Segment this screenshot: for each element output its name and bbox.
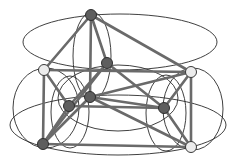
edge-B-H xyxy=(43,70,44,144)
edges-group xyxy=(43,15,191,147)
graph-diagram xyxy=(0,0,234,165)
node-F xyxy=(85,92,96,103)
node-I xyxy=(186,142,197,153)
node-B xyxy=(39,65,50,76)
node-E xyxy=(64,101,75,112)
node-D xyxy=(186,67,197,78)
node-A xyxy=(86,10,97,21)
node-G xyxy=(159,103,170,114)
node-C xyxy=(102,58,113,69)
edge-A-B xyxy=(44,15,91,70)
node-H xyxy=(38,139,49,150)
